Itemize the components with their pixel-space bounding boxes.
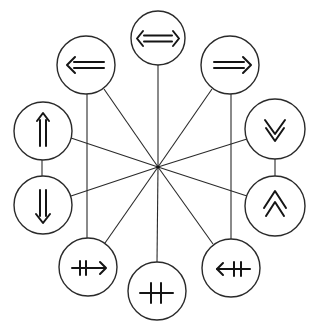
node-crossed-arrow-right [59, 238, 117, 296]
node-double-arrow-down [14, 176, 72, 234]
node-double-arrow-right [201, 36, 259, 94]
spoke-bottom [157, 167, 158, 262]
radial-symbol-diagram [0, 0, 316, 335]
spoke-right-lower [158, 167, 247, 196]
spoke-lower-right [158, 167, 213, 244]
node-double-arrow-up [14, 102, 72, 160]
spokes [71, 65, 247, 262]
spoke-upper-right [158, 89, 212, 167]
node-crossed-arrow-left [202, 239, 260, 297]
node-double-arrow-left-right [131, 11, 185, 65]
node-double-arrow-left [57, 36, 115, 94]
node-double-chevron-down [245, 99, 305, 159]
spoke-left-upper [71, 138, 158, 167]
node-double-chevron-up [245, 176, 305, 236]
spoke-lower-left [105, 167, 158, 243]
hub-point [156, 165, 159, 168]
spoke-right-upper [158, 139, 247, 167]
node-double-crossed-line [128, 262, 186, 320]
spoke-left-lower [71, 167, 158, 196]
spoke-upper-left [104, 89, 158, 167]
